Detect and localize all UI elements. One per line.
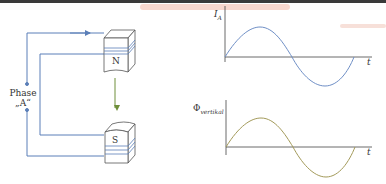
flux-axis-subscript: vertikal bbox=[200, 108, 223, 115]
flux-time-label: t bbox=[367, 147, 371, 157]
phase-label-line1: Phase bbox=[6, 88, 40, 98]
north-pole-label: N bbox=[112, 56, 120, 66]
diagram-canvas bbox=[0, 0, 386, 184]
current-graph bbox=[225, 6, 372, 86]
current-curve bbox=[225, 27, 354, 86]
current-axis-label: IA bbox=[214, 9, 222, 21]
phase-label: Phase „A“ bbox=[6, 88, 40, 108]
flux-curve bbox=[226, 118, 355, 177]
flux-graph bbox=[226, 100, 372, 177]
current-time-label: t bbox=[367, 57, 371, 67]
current-axis-subscript: A bbox=[218, 14, 222, 21]
south-pole-label: S bbox=[112, 135, 118, 145]
phase-label-line2: „A“ bbox=[6, 98, 40, 108]
flux-axis-label: Φvertikal bbox=[193, 103, 224, 115]
south-pole-core bbox=[105, 122, 135, 163]
